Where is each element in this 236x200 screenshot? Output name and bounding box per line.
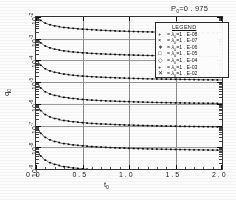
data-point-marker xyxy=(72,51,74,53)
data-point-marker xyxy=(128,31,130,33)
legend-value: =1 . E-03 xyxy=(176,64,197,70)
curve-series: λ xyxy=(38,107,222,128)
data-point-marker xyxy=(114,147,116,149)
data-point-marker xyxy=(207,102,209,104)
data-point-marker xyxy=(91,123,93,125)
data-point-marker xyxy=(198,126,200,128)
data-point-marker xyxy=(217,126,219,128)
data-point-marker xyxy=(170,149,172,151)
data-point-marker xyxy=(137,125,139,127)
data-point-marker xyxy=(175,78,177,80)
grid-line-horizontal xyxy=(36,169,222,170)
data-point-marker xyxy=(133,31,135,33)
data-point-marker xyxy=(58,119,60,121)
data-point-marker xyxy=(179,102,181,104)
data-point-marker xyxy=(86,76,88,78)
data-point-marker xyxy=(96,76,98,78)
data-point-marker xyxy=(96,100,98,102)
data-point-marker xyxy=(119,124,121,126)
data-point-marker xyxy=(68,51,70,53)
y-tick-major-left xyxy=(36,169,41,170)
data-point-marker xyxy=(137,31,139,33)
data-point-marker xyxy=(82,168,84,169)
data-point-marker xyxy=(82,75,84,77)
x-tick-label: 2 . 0 xyxy=(212,171,226,178)
data-point-marker xyxy=(119,147,121,149)
data-point-marker xyxy=(142,54,144,56)
data-point-marker xyxy=(151,101,153,103)
data-point-marker xyxy=(49,162,51,164)
data-point-marker xyxy=(82,28,84,30)
curve-inline-label: λ xyxy=(38,41,40,45)
data-point-marker xyxy=(54,141,56,143)
data-point-marker xyxy=(100,29,102,31)
data-point-marker xyxy=(198,102,200,104)
data-point-marker xyxy=(72,121,74,123)
data-point-marker xyxy=(189,126,191,128)
data-point-marker xyxy=(128,147,130,149)
data-point-marker xyxy=(119,101,121,103)
data-point-marker xyxy=(137,78,139,80)
data-point-marker xyxy=(198,79,200,81)
curve-inline-label: λ xyxy=(38,63,40,67)
data-point-marker xyxy=(91,76,93,78)
data-point-marker xyxy=(179,79,181,81)
data-point-marker xyxy=(110,123,112,125)
data-point-marker xyxy=(44,22,46,24)
figure-title: P0=0 . 975 xyxy=(171,4,208,14)
data-point-marker xyxy=(96,29,98,31)
data-point-marker xyxy=(72,167,74,169)
data-point-marker xyxy=(105,30,107,32)
curve-line xyxy=(38,129,222,150)
data-point-marker xyxy=(54,71,56,73)
data-point-marker xyxy=(147,55,149,57)
data-point-marker xyxy=(114,30,116,32)
data-point-marker xyxy=(142,125,144,127)
data-point-marker xyxy=(86,99,88,101)
data-point-marker xyxy=(49,139,51,141)
data-point-marker xyxy=(72,98,74,100)
data-point-marker xyxy=(175,125,177,127)
y-tick-exponent: -9 xyxy=(28,165,34,169)
data-point-marker xyxy=(91,29,93,31)
data-point-marker xyxy=(58,96,60,98)
data-point-marker xyxy=(91,99,93,101)
data-point-marker xyxy=(151,148,153,150)
curve-series: λ xyxy=(38,84,222,104)
data-point-marker xyxy=(100,146,102,148)
data-point-marker xyxy=(82,145,84,147)
data-point-marker xyxy=(114,54,116,56)
data-point-marker xyxy=(156,125,158,127)
data-point-marker xyxy=(147,78,149,80)
data-point-marker xyxy=(68,143,70,145)
y-axis-symbol: q xyxy=(2,92,11,96)
legend-item[interactable]: ✕= λ0=1 . E-02 xyxy=(158,70,227,77)
data-point-marker xyxy=(82,52,84,54)
data-point-marker xyxy=(77,52,79,54)
data-point-marker xyxy=(124,30,126,32)
data-point-marker xyxy=(96,146,98,148)
data-point-marker xyxy=(137,101,139,103)
curve-inline-label: λ xyxy=(38,153,40,157)
data-point-marker xyxy=(96,53,98,55)
data-point-marker xyxy=(189,149,191,151)
data-point-marker xyxy=(151,55,153,57)
curve-line xyxy=(38,151,222,169)
y-tick-exponent: -5 xyxy=(28,78,34,82)
data-point-marker xyxy=(133,148,135,150)
data-point-marker xyxy=(184,126,186,128)
data-point-marker xyxy=(63,143,65,145)
data-point-marker xyxy=(63,166,65,168)
legend-value: =1 . E-08 xyxy=(176,31,197,37)
data-point-marker xyxy=(156,102,158,104)
y-tick-exponent: -7 xyxy=(28,121,34,125)
curve-inline-label: λ xyxy=(38,85,40,89)
data-point-marker xyxy=(207,79,209,81)
y-tick-exponent: -6 xyxy=(28,100,34,104)
legend-value: =1 . E-05 xyxy=(176,50,197,56)
data-point-marker xyxy=(110,53,112,55)
data-point-marker xyxy=(151,31,153,33)
data-point-marker xyxy=(86,122,88,124)
data-point-marker xyxy=(212,126,214,128)
data-point-marker xyxy=(77,168,79,169)
